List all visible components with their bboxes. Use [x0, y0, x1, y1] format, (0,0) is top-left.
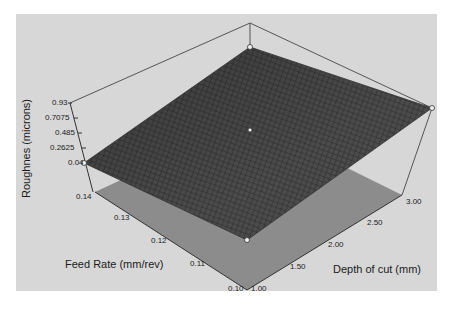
- x-tick-label: 1.00: [251, 284, 267, 293]
- y-tick-label: 0.13: [114, 213, 130, 222]
- y-tick-label: 0.10: [228, 284, 244, 293]
- z-tick-label: 0.2625: [50, 143, 74, 152]
- y-tick-label: 0.11: [190, 259, 205, 268]
- z-tick-label: 0.04: [68, 158, 84, 167]
- y-axis-title: Feed Rate (mm/rev): [65, 258, 163, 270]
- z-tick-label: 0.7075: [45, 113, 69, 122]
- y-tick-label: 0.12: [151, 236, 167, 245]
- z-tick-label: 0.485: [55, 128, 75, 137]
- x-tick-label: 1.50: [290, 262, 306, 271]
- x-tick-label: 3.00: [406, 197, 422, 206]
- y-tick-label: 0.14: [76, 192, 92, 201]
- z-axis-title: Roughnes (microns): [20, 99, 32, 198]
- x-tick-label: 2.00: [328, 240, 344, 249]
- z-tick-label: 0.93: [52, 98, 68, 107]
- x-axis-title: Depth of cut (mm): [333, 263, 421, 275]
- x-tick-label: 2.50: [367, 218, 383, 227]
